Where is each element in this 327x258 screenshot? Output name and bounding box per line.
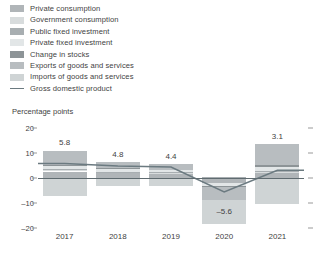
legend-label: Change in stocks [30,49,89,60]
y-tick-mark [32,203,37,204]
y-tick-mark-right [308,153,313,154]
bar-value-label: 4.8 [112,150,123,159]
zero-axis-line [38,178,304,179]
legend-item: Imports of goods and services [10,71,210,82]
y-tick-mark [32,128,37,129]
y-tick-mark [32,153,37,154]
legend-swatch-private-fixed-investment [10,39,24,46]
legend-swatch-exports [10,62,24,69]
bar-value-label: 5.8 [59,138,70,147]
legend-line-gross-domestic-product [10,88,24,89]
legend-item: Private fixed investment [10,37,210,48]
legend-item: Government consumption [10,14,210,25]
bar-value-label: 4.4 [165,152,176,161]
legend-label: Private fixed investment [30,37,112,48]
bar-value-label: 3.1 [272,132,283,141]
legend-label: Private consumption [30,3,100,14]
legend-swatch-government-consumption [10,17,24,24]
legend-swatch-private-consumption [10,5,24,12]
y-tick-label: 10 [8,149,34,158]
legend-swatch-imports [10,74,24,81]
x-tick-label-2018: 2018 [109,232,127,241]
legend-label: Gross domestic product [30,83,112,94]
y-tick-mark-right [308,178,313,179]
legend-item: Exports of goods and services [10,60,210,71]
legend-swatch-public-fixed-investment [10,28,24,35]
y-tick-label: 20 [8,124,34,133]
bar-value-label: –5.6 [216,207,232,216]
x-axis-labels: 20172018201920202021 [38,232,304,252]
legend-item: Private consumption [10,3,210,14]
legend-label: Government consumption [30,14,119,25]
plot-area: 5.84.84.4–5.63.1 [38,128,304,228]
chart-plot: 20100–10–20 5.84.84.4–5.63.1 [0,120,327,235]
y-tick-mark-right [308,228,313,229]
y-tick-label: –10 [8,199,34,208]
x-tick-label-2017: 2017 [56,232,74,241]
x-tick-label-2021: 2021 [268,232,286,241]
legend-item: Gross domestic product [10,83,210,94]
legend-item: Change in stocks [10,49,210,60]
y-axis-title: Percentage points [12,107,73,116]
legend-label: Public fixed investment [30,26,109,37]
x-tick-label-2020: 2020 [215,232,233,241]
y-tick-mark [32,178,37,179]
y-tick-label: –20 [8,224,34,233]
y-tick-mark-right [308,203,313,204]
legend-swatch-change-in-stocks [10,51,24,58]
legend-item: Public fixed investment [10,26,210,37]
y-tick-mark [32,228,37,229]
legend-label: Exports of goods and services [30,60,134,71]
legend-label: Imports of goods and services [30,71,134,82]
chart-legend: Private consumption Government consumpti… [10,3,210,94]
x-tick-label-2019: 2019 [162,232,180,241]
y-tick-label: 0 [8,174,34,183]
y-tick-mark-right [308,128,313,129]
